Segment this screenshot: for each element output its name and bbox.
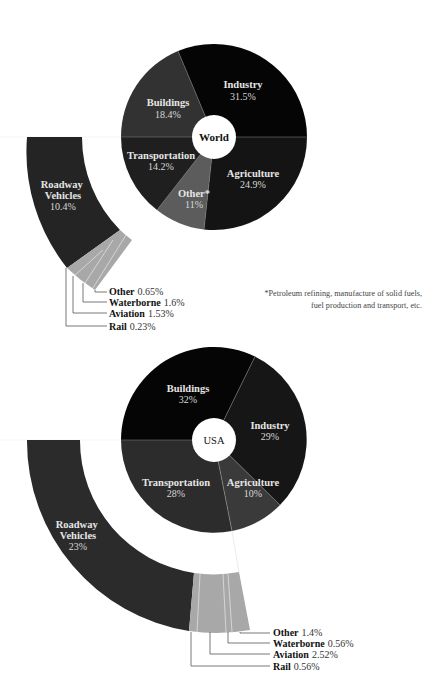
- world-label-other: Other*: [178, 188, 210, 199]
- world-value-buildings: 18.4%: [155, 109, 181, 120]
- world-value-industry: 31.5%: [230, 91, 256, 102]
- world-ring-label-roadway: Roadway Vehicles: [41, 179, 86, 201]
- usa-legend-waterborne: Waterborne0.56%: [273, 638, 354, 649]
- usa-ring-value-roadway: 23%: [69, 541, 87, 552]
- usa-legend-aviation: Aviation2.52%: [273, 649, 338, 660]
- usa-value-transportation: 28%: [167, 488, 185, 499]
- world-label-transportation: Transportation: [127, 150, 195, 161]
- usa-value-buildings: 32%: [179, 394, 197, 405]
- world-value-other: 11%: [185, 199, 203, 210]
- world-ring-value-roadway: 10.4%: [50, 201, 76, 212]
- world-value-transportation: 14.2%: [148, 161, 174, 172]
- world-legend-other: Other0.65%: [109, 286, 163, 297]
- emissions-chart: World Industry 31.5% Buildings 18.4% Tra…: [0, 0, 432, 697]
- usa-ring-label-roadway: Roadway Vehicles: [56, 519, 101, 541]
- world-label-buildings: Buildings: [147, 97, 190, 108]
- usa-label-buildings: Buildings: [167, 383, 210, 394]
- usa-pie: USA Buildings 32% Industry 29% Transport…: [121, 347, 307, 533]
- world-legend-waterborne: Waterborne1.6%: [109, 297, 185, 308]
- world-value-agriculture: 24.9%: [240, 179, 266, 190]
- usa-label-agriculture: Agriculture: [227, 477, 280, 488]
- usa-label-transportation: Transportation: [142, 477, 210, 488]
- usa-legend-rail: Rail0.56%: [273, 661, 320, 672]
- world-label-industry: Industry: [223, 79, 263, 90]
- usa-ring-subsegments: [189, 572, 250, 633]
- usa-label-industry: Industry: [250, 420, 290, 431]
- usa-value-agriculture: 10%: [244, 488, 262, 499]
- usa-legend-other: Other1.4%: [273, 627, 322, 638]
- world-legend-aviation: Aviation1.53%: [109, 308, 174, 319]
- world-legend-rail: Rail0.23%: [109, 321, 156, 332]
- world-pie: World Industry 31.5% Buildings 18.4% Tra…: [121, 44, 307, 230]
- world-label-agriculture: Agriculture: [227, 168, 280, 179]
- world-center-label: World: [199, 131, 229, 143]
- usa-value-industry: 29%: [261, 431, 279, 442]
- footnote: *Petroleum refining, manufacture of soli…: [250, 288, 422, 312]
- usa-center-label: USA: [203, 435, 224, 446]
